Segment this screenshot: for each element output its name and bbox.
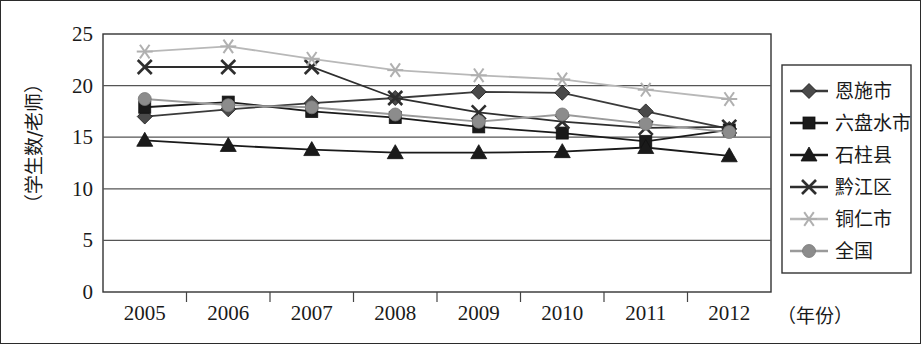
data-point-marker xyxy=(639,117,652,130)
data-point-marker xyxy=(389,108,402,121)
data-point-marker xyxy=(556,108,569,121)
line-chart: 0510152025 20052006200720082009201020112… xyxy=(1,1,920,343)
legend-label: 全国 xyxy=(835,240,873,262)
legend-label: 恩施市 xyxy=(835,80,892,102)
x-tick-label: 2010 xyxy=(541,301,583,325)
y-tick-label: 15 xyxy=(72,125,93,149)
legend-label: 六盘水市 xyxy=(835,112,911,134)
data-point-marker xyxy=(222,99,235,112)
chart-frame: 0510152025 20052006200720082009201020112… xyxy=(0,0,921,344)
legend-label: 铜仁市 xyxy=(835,208,892,230)
y-tick-label: 25 xyxy=(72,22,93,46)
x-axis-title: （年份） xyxy=(777,305,853,327)
data-point-marker xyxy=(723,126,736,139)
legend-label: 石柱县 xyxy=(835,144,892,166)
y-axis-title: （学生数/老师） xyxy=(23,74,45,213)
x-axis-tick-labels: 20052006200720082009201020112012 xyxy=(124,301,751,325)
y-tick-label: 10 xyxy=(72,177,93,201)
data-point-marker xyxy=(803,117,815,129)
x-tick-label: 2007 xyxy=(291,301,333,325)
x-tick-label: 2011 xyxy=(625,301,666,325)
x-tick-label: 2006 xyxy=(207,301,249,325)
legend-label: 黔江区 xyxy=(835,176,892,198)
y-tick-label: 20 xyxy=(72,74,93,98)
data-point-marker xyxy=(305,101,318,114)
x-tick-label: 2009 xyxy=(458,301,500,325)
data-point-marker xyxy=(803,245,816,258)
data-point-marker xyxy=(556,127,568,139)
x-tick-label: 2005 xyxy=(124,301,166,325)
x-axis-separators xyxy=(187,292,688,302)
data-point-marker xyxy=(472,115,485,128)
y-tick-label: 5 xyxy=(83,228,94,252)
y-axis-tick-labels: 0510152025 xyxy=(72,22,93,304)
y-tick-label: 0 xyxy=(83,280,94,304)
data-point-marker xyxy=(138,93,151,106)
x-tick-label: 2012 xyxy=(708,301,750,325)
x-tick-label: 2008 xyxy=(374,301,416,325)
